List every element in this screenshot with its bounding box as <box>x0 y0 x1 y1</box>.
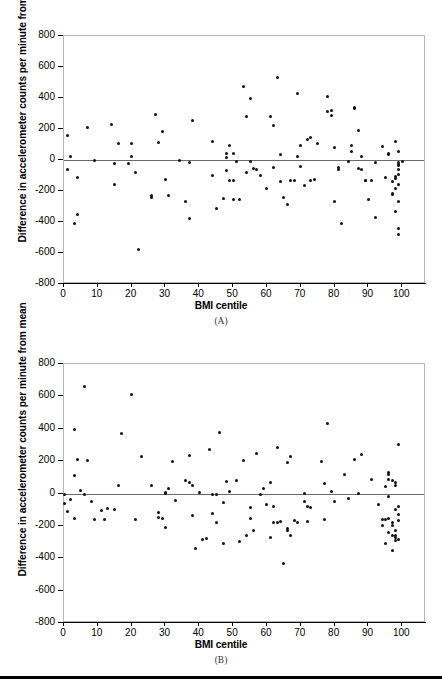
y-axis-tick-label: -600 <box>3 585 55 595</box>
data-point <box>73 517 76 520</box>
data-point <box>106 507 109 510</box>
data-point <box>397 505 400 508</box>
y-axis-tick-label: -200 <box>3 520 55 530</box>
data-point <box>326 422 329 425</box>
zero-reference-line-b <box>64 494 424 495</box>
y-axis-tick-label: 400 <box>3 423 55 433</box>
data-point <box>374 216 377 219</box>
data-point <box>296 92 299 95</box>
data-point <box>76 213 79 216</box>
data-point <box>113 183 116 186</box>
data-point <box>397 173 400 176</box>
data-point <box>245 534 248 537</box>
x-axis-tick-label: 40 <box>183 628 213 638</box>
data-point <box>76 176 79 179</box>
data-point <box>225 480 228 483</box>
x-axis-tick <box>266 283 267 287</box>
x-axis-tick <box>131 622 132 626</box>
bottom-divider-rule <box>0 676 442 679</box>
x-axis-tick-label: 20 <box>116 628 146 638</box>
data-point <box>191 119 194 122</box>
data-point <box>394 529 397 532</box>
x-axis-tick-label: 40 <box>183 289 213 299</box>
data-point <box>286 203 289 206</box>
data-point <box>323 482 326 485</box>
x-axis-tick <box>97 622 98 626</box>
x-axis-tick-label: 30 <box>149 289 179 299</box>
data-point <box>103 518 106 521</box>
x-axis-tick <box>232 622 233 626</box>
data-point <box>272 124 275 127</box>
y-axis-tick-label: -800 <box>3 278 55 288</box>
data-point <box>93 518 96 521</box>
data-point <box>259 493 262 496</box>
data-point <box>188 161 191 164</box>
data-point <box>397 200 400 203</box>
data-point <box>249 517 252 520</box>
x-axis-tick <box>164 622 165 626</box>
x-axis-tick <box>232 283 233 287</box>
x-axis-tick <box>63 283 64 287</box>
figure-panel-a: Difference in accelerometer counts per m… <box>0 0 442 320</box>
data-point <box>245 171 248 174</box>
data-point <box>262 487 265 490</box>
data-point <box>333 500 336 503</box>
y-axis-tick-label: 800 <box>3 358 55 368</box>
data-point <box>63 493 66 496</box>
data-point <box>245 115 248 118</box>
data-point <box>249 160 252 163</box>
data-point <box>265 187 268 190</box>
data-point <box>242 459 245 462</box>
data-point <box>391 180 394 183</box>
data-point <box>164 526 167 529</box>
data-point <box>397 227 400 230</box>
data-point <box>384 542 387 545</box>
data-point <box>394 534 397 537</box>
data-point <box>222 197 225 200</box>
x-axis-tick-label: 50 <box>217 289 247 299</box>
data-point <box>259 174 262 177</box>
data-point <box>316 142 319 145</box>
data-point <box>360 155 363 158</box>
data-point <box>313 178 316 181</box>
data-point <box>370 478 373 481</box>
y-axis-tick-label: 0 <box>3 154 55 164</box>
data-point <box>306 520 309 523</box>
data-point <box>238 198 241 201</box>
data-point <box>194 547 197 550</box>
data-point <box>303 500 306 503</box>
data-point <box>171 460 174 463</box>
data-point <box>164 491 167 494</box>
data-point <box>211 512 214 515</box>
data-point <box>174 499 177 502</box>
data-point <box>218 431 221 434</box>
data-point <box>397 513 400 516</box>
data-point <box>323 518 326 521</box>
data-point <box>397 233 400 236</box>
data-point <box>333 200 336 203</box>
data-point <box>347 160 350 163</box>
data-point <box>303 184 306 187</box>
data-point <box>397 183 400 186</box>
data-point <box>296 155 299 158</box>
x-axis-tick-label: 60 <box>251 628 281 638</box>
data-point <box>130 155 133 158</box>
data-point <box>150 484 153 487</box>
x-axis-tick-label: 80 <box>319 289 349 299</box>
data-point <box>303 492 306 495</box>
x-axis-tick-label: 80 <box>319 628 349 638</box>
data-point <box>394 508 397 511</box>
data-point <box>93 159 96 162</box>
data-point <box>377 503 380 506</box>
x-axis-tick-label: 70 <box>285 289 315 299</box>
data-point <box>381 145 384 148</box>
data-point <box>211 140 214 143</box>
data-point <box>228 179 231 182</box>
x-axis-title-a: BMI centile <box>0 300 442 311</box>
data-point <box>249 97 252 100</box>
y-axis-tick-label: 0 <box>3 488 55 498</box>
data-point <box>232 179 235 182</box>
figure-panel-b: Difference in accelerometer counts per m… <box>0 328 442 658</box>
data-point <box>394 187 397 190</box>
data-point <box>157 141 160 144</box>
